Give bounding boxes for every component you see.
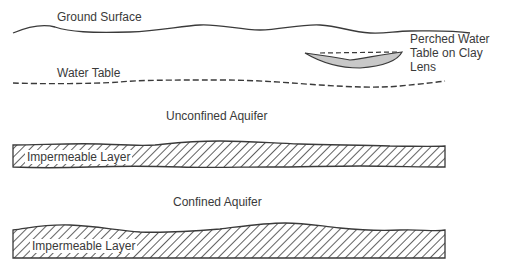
perched-water-table-label-line3: Lens — [410, 60, 436, 74]
water-table-line — [13, 80, 445, 87]
perched-water-table-label-line1: Perched Water — [410, 32, 490, 46]
confined-aquifer-label: Confined Aquifer — [173, 195, 262, 209]
perched-water-table-label-line2: Table on Clay — [410, 46, 483, 60]
aquifer-diagram: Ground Surface Water Table Perched Water… — [0, 0, 509, 273]
impermeable-layer-label-2: Impermeable Layer — [30, 239, 137, 253]
perched-water-table-line — [320, 52, 398, 53]
unconfined-aquifer-label: Unconfined Aquifer — [166, 109, 267, 123]
ground-surface-line — [13, 25, 470, 33]
water-table-label: Water Table — [57, 66, 120, 80]
clay-lens-shape — [305, 52, 402, 68]
ground-surface-label: Ground Surface — [57, 10, 142, 24]
impermeable-layer-label-1: Impermeable Layer — [25, 150, 132, 164]
